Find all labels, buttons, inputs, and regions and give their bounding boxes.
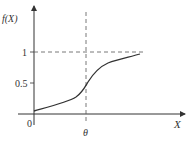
- y-tick-label-0-5: 0.5: [15, 78, 28, 89]
- x-axis-label: X: [173, 118, 182, 130]
- y-axis-label: f(X): [2, 13, 18, 25]
- cdf-chart: f(X) 1 0.5 0 θ X: [0, 0, 189, 145]
- y-tick-label-1: 1: [22, 47, 27, 58]
- origin-label: 0: [27, 118, 32, 129]
- x-tick-label-theta: θ: [83, 127, 88, 138]
- cdf-curve: [34, 54, 140, 111]
